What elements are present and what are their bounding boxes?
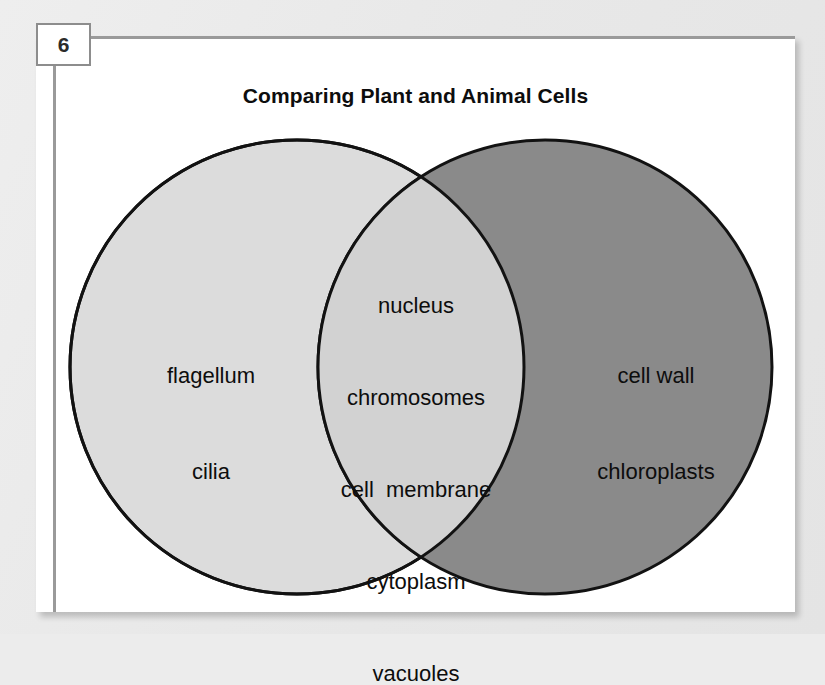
list-item: chloroplasts (541, 461, 771, 483)
slide-number-text: 6 (58, 34, 70, 55)
badge-connector-vertical (53, 64, 56, 612)
list-item: cilia (106, 461, 316, 483)
slide-card: Comparing Plant and Animal Cells Animal … (36, 36, 795, 612)
list-item: nucleus (306, 295, 526, 317)
venn-left-item-list: flagellum cilia (106, 321, 316, 527)
list-item: cytoplasm (306, 571, 526, 593)
list-item: vacuoles (306, 663, 526, 685)
badge-connector-horizontal (88, 36, 795, 39)
slide-number-badge: 6 (36, 23, 91, 66)
venn-right-item-list: cell wall chloroplasts (541, 321, 771, 527)
list-item: cell wall (541, 365, 771, 387)
list-item: chromosomes (306, 387, 526, 409)
list-item: flagellum (106, 365, 316, 387)
list-item: cell membrane (306, 479, 526, 501)
venn-intersection-item-list: nucleus chromosomes cell membrane cytopl… (306, 251, 526, 685)
